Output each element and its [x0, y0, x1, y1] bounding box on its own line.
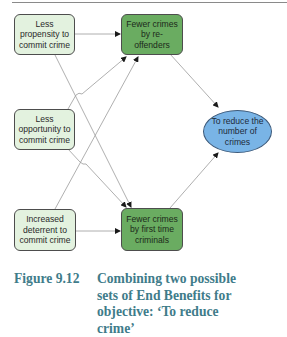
node-objective: To reduce the number of crimes: [203, 110, 272, 153]
edge-opportunity-to-reoffenders: [68, 57, 126, 109]
figure-description: Combining two possible sets of End Benef…: [97, 271, 247, 337]
node-less-opportunity: Less opportunity to commit crime: [14, 109, 75, 150]
node-label: Less opportunity to commit crime: [17, 114, 72, 146]
figure-label: Figure 9.12: [14, 271, 79, 288]
edge-reoffenders-to-objective: [170, 54, 218, 107]
node-label: Fewer crimes by first time criminals: [124, 214, 180, 246]
node-increased-deterrent: Increased deterrent to commit crime: [14, 209, 76, 251]
node-label: Increased deterrent to commit crime: [17, 214, 73, 246]
node-fewer-reoffenders: Fewer crimes by re-offenders: [121, 14, 183, 55]
edge-opportunity-to-first-time: [68, 149, 126, 207]
node-label: Fewer crimes by re-offenders: [124, 19, 180, 51]
node-label: Less propensity to commit crime: [17, 19, 72, 51]
node-fewer-first-time: Fewer crimes by first time criminals: [121, 208, 183, 251]
node-less-propensity: Less propensity to commit crime: [14, 14, 75, 55]
edge-first-time-to-objective: [170, 153, 218, 208]
node-label: To reduce the number of crimes: [210, 116, 265, 148]
